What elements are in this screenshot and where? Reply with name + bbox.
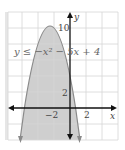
- y-axis-arrow-up-icon: [67, 12, 73, 18]
- inequality-label: y ≤ −x² − 5x + 4: [14, 46, 100, 57]
- x-axis-label: x: [110, 112, 115, 121]
- y-axis-label: y: [74, 13, 79, 22]
- x-axis-arrow-left-icon: [8, 105, 14, 111]
- x-tick-2: 2: [84, 111, 90, 120]
- y-tick-2: 2: [62, 89, 68, 98]
- y-tick-10: 10: [58, 24, 69, 33]
- x-tick-neg2: −2: [45, 111, 58, 120]
- graph-shadow: [5, 12, 8, 140]
